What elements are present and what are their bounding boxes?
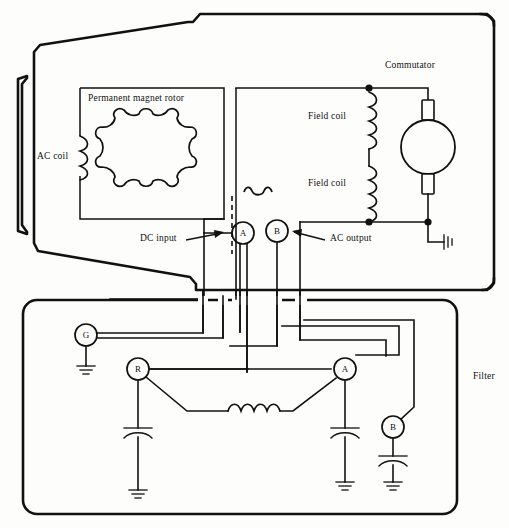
commutator-ground-lead <box>428 222 444 242</box>
permanent-magnet-rotor-label: Permanent magnet rotor <box>88 93 184 103</box>
generator-enclosure-corner-tr <box>480 14 494 26</box>
field-coil-upper-symbol <box>369 92 377 149</box>
commutator-ground-symbol <box>444 235 452 249</box>
r-ground-symbol <box>129 490 147 498</box>
mounting-bracket <box>18 76 27 234</box>
diagram-canvas: Permanent magnet rotor AC coil Commutato… <box>0 0 509 528</box>
commutator-symbol <box>401 120 455 174</box>
connector-pin-a-label: A <box>238 228 248 238</box>
ac-coil-label: AC coil <box>37 151 68 161</box>
commutator-top-lead <box>369 88 428 104</box>
filter-inductor-symbol <box>228 404 280 411</box>
filter-terminal-b-label: B <box>388 422 398 432</box>
filter-terminal-a-label: A <box>340 364 350 374</box>
a-ground-symbol <box>336 482 354 490</box>
field-coil-lower-label: Field coil <box>308 178 346 188</box>
filter-terminal-r-label: R <box>133 364 143 374</box>
ac-output-label: AC output <box>330 233 372 243</box>
b-ground-symbol <box>384 482 402 490</box>
field-coil-upper-label: Field coil <box>308 111 346 121</box>
field-coil-lower-symbol <box>369 166 377 222</box>
schematic-svg <box>0 0 509 528</box>
filter-terminal-g-label: G <box>81 330 91 340</box>
dc-input-arrowhead <box>214 230 224 238</box>
commutator-label: Commutator <box>385 60 435 70</box>
commutator-top-brush <box>422 100 434 120</box>
mask-4 <box>295 296 307 305</box>
generator-enclosure-corner-br <box>482 278 494 290</box>
ac-coil-gap-mask <box>77 136 84 176</box>
inductor-to-a-lead <box>280 378 336 411</box>
r-to-inductor-lead <box>146 377 228 411</box>
connector-pin-b-label: B <box>272 226 282 236</box>
pin-b-down-lead <box>230 242 277 346</box>
filter-label: Filter <box>473 371 495 381</box>
permanent-magnet-rotor-symbol <box>96 109 197 187</box>
dc-input-label: DC input <box>140 233 177 243</box>
commutator-bottom-brush <box>422 174 434 194</box>
ground-bus-upper <box>96 290 203 333</box>
g-ground-symbol <box>77 366 95 374</box>
